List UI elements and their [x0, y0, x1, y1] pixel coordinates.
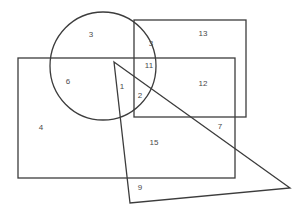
region-label: 3: [89, 30, 94, 39]
venn-diagram: 3313116121247159: [0, 0, 307, 212]
region-label: 1: [120, 82, 125, 91]
region-label: 4: [39, 123, 44, 132]
region-label: 6: [66, 77, 71, 86]
region-label: 2: [138, 91, 143, 100]
region-label: 13: [199, 29, 208, 38]
region-label: 9: [138, 183, 143, 192]
region-label: 11: [145, 61, 154, 70]
region-label: 12: [199, 79, 208, 88]
region-label: 15: [150, 138, 159, 147]
region-labels: 3313116121247159: [39, 29, 223, 192]
circle-shape: [50, 12, 156, 120]
region-label: 3: [149, 39, 154, 48]
region-label: 7: [218, 122, 223, 131]
